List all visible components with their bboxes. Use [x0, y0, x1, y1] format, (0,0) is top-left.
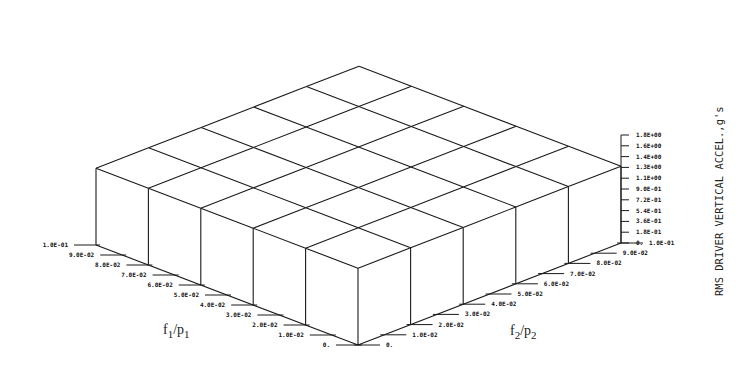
tick-label: 8.0E-02	[596, 259, 622, 266]
tick-label: 1.0E-01	[43, 241, 69, 248]
tick-label: 9.0E-01	[636, 185, 662, 192]
f1-p1-axis: 0.1.0E-022.0E-023.0E-024.0E-025.0E-026.0…	[43, 241, 362, 348]
tick-label: 9.0E-02	[69, 251, 95, 258]
tick-label: 5.4E-01	[636, 207, 662, 214]
tick-label: 0.	[636, 239, 643, 246]
tick-label: 4.0E-02	[200, 301, 226, 308]
tick-label: 1.0E-01	[649, 239, 675, 246]
tick-label: 4.0E-02	[491, 300, 517, 307]
tick-label: 7.0E-02	[121, 271, 147, 278]
tick-label: 6.0E-02	[148, 281, 174, 288]
tick-label: 3.6E-01	[636, 217, 662, 224]
tick-label: 8.0E-02	[95, 261, 121, 268]
tick-label: 5.0E-02	[174, 291, 200, 298]
surface-wireframe	[96, 66, 621, 345]
tick-label: 1.3E+00	[636, 163, 662, 170]
tick-label: 9.0E-02	[623, 249, 649, 256]
tick-label: 3.0E-02	[465, 310, 491, 317]
tick-label: 1.1E+00	[636, 174, 662, 181]
tick-label: 1.4E+00	[636, 153, 662, 160]
y-axis-title: f2/p2	[510, 323, 537, 341]
tick-label: 1.6E+00	[636, 142, 662, 149]
tick-label: 2.0E-02	[439, 321, 465, 328]
tick-label: 0.	[323, 341, 330, 348]
tick-label: 2.0E-02	[252, 321, 278, 328]
tick-label: 7.2E-01	[636, 196, 662, 203]
surface-plot: 0.1.0E-022.0E-023.0E-024.0E-025.0E-026.0…	[0, 0, 738, 367]
x-axis-title: f1/p1	[163, 322, 190, 340]
tick-label: 0.	[386, 341, 393, 348]
tick-label: 7.0E-02	[570, 270, 596, 277]
tick-label: 6.0E-02	[544, 280, 570, 287]
tick-label: 5.0E-02	[518, 290, 544, 297]
tick-label: 1.0E-02	[279, 331, 305, 338]
tick-label: 1.8E-01	[636, 228, 662, 235]
tick-label: 1.8E+00	[636, 131, 662, 138]
z-axis-title: RMS DRIVER VERTICAL ACCEL.,g's	[713, 106, 725, 296]
tick-label: 3.0E-02	[226, 311, 252, 318]
tick-label: 1.0E-02	[412, 331, 438, 338]
accel-axis: 0.1.8E-013.6E-015.4E-017.2E-019.0E-011.1…	[621, 131, 662, 246]
